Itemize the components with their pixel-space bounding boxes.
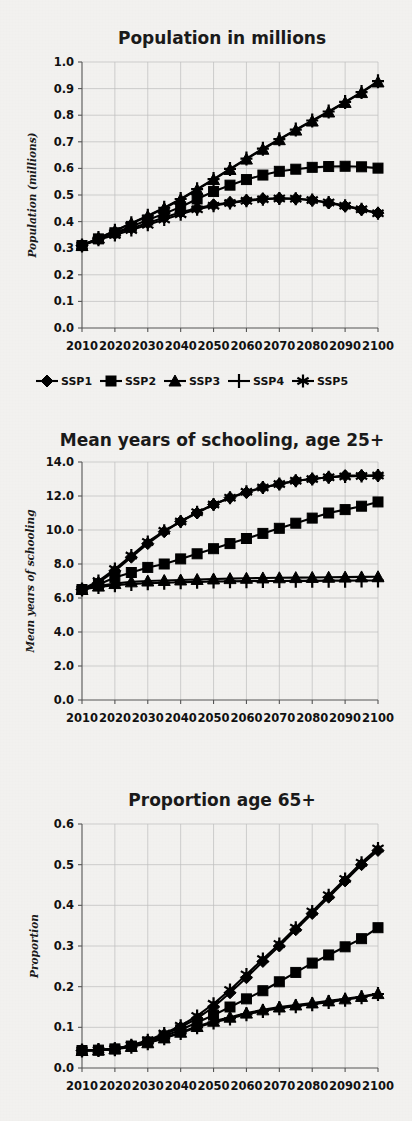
- y-tick-label: 0.4: [54, 898, 74, 912]
- square-marker: [241, 534, 251, 544]
- y-tick-label: 0.0: [54, 321, 74, 335]
- square-marker: [291, 967, 301, 977]
- marker-square: [274, 523, 284, 533]
- square-marker: [143, 562, 153, 572]
- marker-plus: [306, 997, 318, 1011]
- marker-plus: [191, 575, 203, 589]
- y-tick-label: 0.0: [54, 693, 74, 707]
- population-chart-title: Population in millions: [118, 28, 326, 48]
- x-tick-label: 2080: [296, 711, 328, 725]
- marker-square: [241, 175, 251, 185]
- population-chart-svg: Population in millions 0.00.10.20.30.40.…: [0, 0, 412, 400]
- x-tick-label: 2020: [99, 339, 131, 353]
- x-tick-label: 2080: [296, 339, 328, 353]
- series-SSP4: [76, 74, 384, 252]
- marker-square: [225, 539, 235, 549]
- x-tick-label: 2100: [362, 1079, 394, 1093]
- square-marker: [373, 163, 383, 173]
- square-marker: [159, 559, 169, 569]
- marker-plus: [356, 990, 368, 1004]
- marker-plus: [208, 575, 220, 589]
- marker-plus: [356, 573, 368, 587]
- marker-square: [209, 187, 219, 197]
- y-tick-label: 0.2: [54, 980, 74, 994]
- proportion-chart-title: Proportion age 65+: [128, 790, 315, 810]
- plus-marker: [306, 574, 318, 588]
- y-tick-label: 0.0: [54, 1061, 74, 1075]
- marker-plus: [306, 574, 318, 588]
- marker-plus: [240, 1007, 252, 1021]
- x-tick-label: 2060: [230, 1079, 262, 1093]
- legend-item-SSP2[interactable]: SSP2: [100, 375, 156, 388]
- marker-square: [357, 501, 367, 511]
- plus-marker: [323, 995, 335, 1009]
- legend-item-SSP3[interactable]: SSP3: [164, 375, 220, 388]
- marker-square: [274, 166, 284, 176]
- marker-plus: [257, 1004, 269, 1018]
- square-marker: [225, 539, 235, 549]
- marker-plus: [372, 573, 384, 587]
- square-marker: [324, 162, 334, 172]
- marker-square: [340, 942, 350, 952]
- marker-square: [258, 170, 268, 180]
- x-tick-label: 2050: [198, 339, 230, 353]
- plus-marker: [158, 576, 170, 590]
- marker-square: [357, 162, 367, 172]
- marker-plus: [233, 374, 245, 388]
- plus-marker: [257, 574, 269, 588]
- proportion-chart-svg: Proportion age 65+ 0.00.10.20.30.40.50.6…: [0, 760, 412, 1121]
- plus-marker: [372, 573, 384, 587]
- plus-marker: [339, 574, 351, 588]
- x-tick-label: 2070: [263, 1079, 295, 1093]
- marker-square: [159, 559, 169, 569]
- square-marker: [291, 164, 301, 174]
- square-marker: [258, 170, 268, 180]
- x-tick-label: 2090: [329, 711, 361, 725]
- proportion-plot: 0.00.10.20.30.40.50.62010202020302040205…: [28, 817, 394, 1093]
- marker-square: [307, 958, 317, 968]
- marker-plus: [290, 999, 302, 1013]
- square-marker: [307, 162, 317, 172]
- legend-item-SSP4[interactable]: SSP4: [228, 374, 284, 388]
- plus-marker: [240, 1007, 252, 1021]
- marker-square: [241, 534, 251, 544]
- marker-diamond: [41, 375, 53, 387]
- marker-square: [373, 163, 383, 173]
- square-marker: [274, 166, 284, 176]
- square-marker: [357, 934, 367, 944]
- plus-marker: [224, 574, 236, 588]
- marker-plus: [257, 574, 269, 588]
- x-tick-label: 2040: [165, 339, 197, 353]
- square-marker: [324, 508, 334, 518]
- schooling-plot: 0.02.04.06.08.010.012.014.02010202020302…: [24, 455, 394, 725]
- plus-marker: [306, 997, 318, 1011]
- y-tick-label: 0.4: [54, 215, 74, 229]
- square-marker: [307, 513, 317, 523]
- x-tick-label: 2090: [329, 1079, 361, 1093]
- square-marker: [258, 986, 268, 996]
- legend-item-SSP5[interactable]: SSP5: [292, 375, 348, 389]
- population-plot: 0.00.10.20.30.40.50.60.70.80.91.02010202…: [26, 55, 394, 353]
- marker-square: [143, 562, 153, 572]
- y-tick-label: 12.0: [46, 489, 74, 503]
- x-tick-label: 2020: [99, 1079, 131, 1093]
- marker-square: [291, 967, 301, 977]
- plus-marker: [257, 1004, 269, 1018]
- schooling-chart-svg: Mean years of schooling, age 25+ 0.02.04…: [0, 400, 412, 760]
- legend-item-SSP1[interactable]: SSP1: [36, 375, 92, 388]
- marker-plus: [290, 574, 302, 588]
- y-tick-label: 0.5: [54, 188, 74, 202]
- y-axis-title: Proportion: [28, 914, 40, 979]
- marker-square: [106, 376, 116, 386]
- plus-marker: [191, 575, 203, 589]
- y-tick-label: 8.0: [54, 557, 74, 571]
- y-tick-label: 4.0: [54, 625, 74, 639]
- square-marker: [192, 549, 202, 559]
- marker-square: [291, 518, 301, 528]
- x-tick-label: 2030: [132, 339, 164, 353]
- marker-square: [324, 508, 334, 518]
- marker-plus: [323, 574, 335, 588]
- y-tick-label: 0.3: [54, 939, 74, 953]
- square-marker: [291, 518, 301, 528]
- square-marker: [274, 523, 284, 533]
